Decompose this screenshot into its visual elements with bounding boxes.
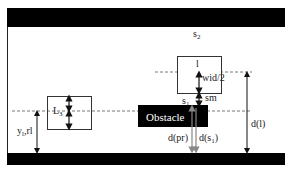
sm-label: sm	[205, 92, 217, 103]
d-l-label: d(l)	[251, 118, 265, 130]
wid-half-label: wid/2	[202, 72, 225, 83]
y-rl-label: yl,rl	[17, 125, 33, 138]
L3-label: L3	[53, 105, 63, 118]
obstacle-label: Obstacle	[146, 111, 185, 123]
s2-label: s2	[193, 28, 201, 41]
bottom-road-edge	[7, 153, 285, 165]
road-lane-diagram: s2 l wid/2 s1 sm Obstacle d(pr) d(s1) d(…	[0, 0, 291, 172]
vehicle-l-label: l	[196, 58, 199, 69]
d-s1-label: d(s1)	[199, 132, 218, 145]
d-pr-label: d(pr)	[168, 132, 188, 144]
top-road-edge	[7, 8, 285, 27]
